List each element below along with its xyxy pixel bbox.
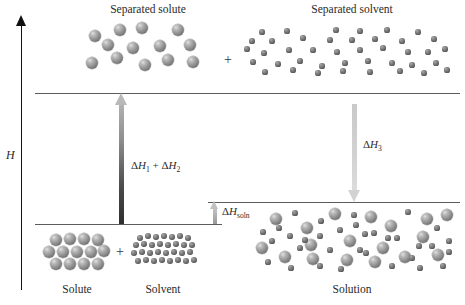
- solvent-particle: [275, 61, 280, 66]
- solvent-particle: [169, 234, 174, 239]
- solvent-particle: [446, 238, 451, 243]
- solvent-particle: [185, 235, 190, 240]
- solvent-particle: [363, 250, 368, 255]
- solvent-particle: [141, 241, 146, 246]
- label-solution: Solution: [333, 283, 372, 295]
- enthalpy-axis-arrowhead: [16, 15, 26, 26]
- arrow-delta-h1-h2-head: [115, 93, 127, 105]
- plus-sign-top: +: [224, 52, 232, 68]
- solute-particle: [417, 231, 429, 243]
- solvent-particle: [173, 241, 178, 246]
- solvent-particle: [165, 242, 170, 247]
- plus-sign-bottom: +: [116, 244, 124, 260]
- solute-particle: [92, 258, 105, 271]
- solvent-particle: [333, 27, 338, 32]
- solute-particle: [184, 39, 196, 51]
- solvent-particle: [139, 249, 144, 254]
- solvent-particle: [362, 231, 367, 236]
- arrow-delta-h3-shaft: [352, 104, 357, 192]
- solvent-particle: [327, 37, 332, 42]
- solvent-particle: [163, 250, 168, 255]
- solvent-particle: [189, 242, 194, 247]
- solvent-particle: [191, 257, 196, 262]
- solvent-particle: [380, 45, 385, 50]
- solute-particle: [50, 258, 63, 271]
- solute-particle: [432, 249, 444, 261]
- solute-particle: [270, 213, 282, 225]
- enthalpy-axis-label: H: [6, 148, 15, 163]
- label-separated-solute: Separated solute: [110, 3, 186, 15]
- arrow-delta-h-soln-shaft: [213, 208, 217, 224]
- solvent-particle: [405, 49, 410, 54]
- enthalpy-axis-line: [21, 22, 22, 290]
- solvent-particle: [357, 47, 362, 52]
- solvent-particle: [415, 29, 420, 34]
- solvent-particle: [317, 263, 322, 268]
- level-line-solution: [208, 202, 460, 203]
- solvent-particle: [297, 58, 302, 63]
- label-delta-h3: ΔH3: [363, 138, 382, 153]
- solute-particle: [102, 39, 114, 51]
- solute-particle: [98, 245, 111, 258]
- solvent-particle: [372, 36, 377, 41]
- solvent-particle: [399, 38, 404, 43]
- solvent-particle: [259, 29, 264, 34]
- solvent-particle: [317, 233, 322, 238]
- solvent-particle: [365, 58, 370, 63]
- solvent-particle: [145, 233, 150, 238]
- solvent-particle: [334, 49, 339, 54]
- solute-particle: [301, 222, 313, 234]
- solute-particle: [64, 233, 77, 246]
- label-solute: Solute: [62, 283, 91, 295]
- solvent-particle: [446, 249, 451, 254]
- solute-particle: [78, 233, 91, 246]
- solvent-particle: [315, 70, 320, 75]
- solvent-particle: [310, 47, 315, 52]
- solvent-particle: [417, 265, 422, 270]
- solvent-particle: [297, 245, 302, 250]
- solute-particle: [136, 22, 148, 34]
- solvent-particle: [276, 225, 281, 230]
- solvent-particle: [181, 242, 186, 247]
- solvent-particle: [135, 258, 140, 263]
- solvent-particle: [149, 242, 154, 247]
- solute-particle: [64, 258, 77, 271]
- solvent-particle: [327, 247, 332, 252]
- solvent-particle: [397, 68, 402, 73]
- solvent-particle: [434, 225, 439, 230]
- solvent-particle: [183, 258, 188, 263]
- solvent-particle: [157, 241, 162, 246]
- solvent-particle: [260, 229, 265, 234]
- solute-particle: [279, 251, 291, 263]
- solvent-particle: [179, 250, 184, 255]
- solvent-particle: [261, 50, 266, 55]
- solute-particle: [172, 24, 184, 36]
- arrow-delta-h-soln-head: [210, 201, 218, 209]
- solute-particle: [111, 52, 123, 64]
- solute-particle: [385, 220, 397, 232]
- solvent-particle: [244, 46, 249, 51]
- solvent-particle: [147, 250, 152, 255]
- solvent-particle: [177, 233, 182, 238]
- arrow-delta-h3-head: [348, 190, 360, 202]
- solute-particle: [86, 57, 98, 69]
- solute-particle: [85, 246, 98, 259]
- solute-particle: [187, 56, 199, 68]
- solvent-particle: [444, 67, 449, 72]
- solvent-particle: [250, 59, 255, 64]
- solvent-particle: [367, 69, 372, 74]
- solute-particle: [57, 246, 70, 259]
- solute-particle: [377, 242, 389, 254]
- solvent-particle: [161, 233, 166, 238]
- solute-particle: [344, 235, 356, 247]
- solvent-particle: [431, 36, 436, 41]
- solvent-particle: [371, 230, 376, 235]
- solute-particle: [341, 254, 353, 266]
- solvent-particle: [143, 257, 148, 262]
- solvent-particle: [137, 235, 142, 240]
- solvent-particle: [290, 67, 295, 72]
- solute-particle: [43, 246, 56, 259]
- solvent-particle: [159, 257, 164, 262]
- solvent-particle: [288, 265, 293, 270]
- solvent-particle: [340, 68, 345, 73]
